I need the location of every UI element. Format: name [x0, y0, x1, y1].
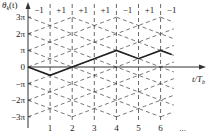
- bit-label: +1: [78, 5, 88, 15]
- y-tick-label: 3π: [16, 12, 26, 22]
- trellis-line: [116, 95, 173, 117]
- bit-label: +1: [101, 5, 111, 15]
- y-tick-label: π: [20, 45, 25, 55]
- x-tick-label: 2: [70, 123, 75, 133]
- x-tick-label: ...: [179, 123, 186, 133]
- trellis-line: [72, 79, 174, 117]
- bit-label: −1: [123, 5, 133, 15]
- bit-labels: −1+1+1+1−1+1−1: [34, 5, 176, 15]
- y-tick-label: 0: [21, 62, 26, 72]
- x-tick-label: 4: [114, 123, 119, 133]
- axes: [26, 2, 207, 128]
- x-tick-label: 3: [92, 123, 97, 133]
- x-tick-labels: 123456...: [48, 123, 186, 133]
- y-tick-label: −3π: [11, 112, 26, 122]
- y-tick-label: 2π: [16, 29, 26, 39]
- trellis-line: [72, 17, 174, 55]
- x-tick-label: 1: [48, 123, 53, 133]
- x-tick-label: 6: [158, 123, 163, 133]
- bit-label: +1: [145, 5, 155, 15]
- x-axis-arrow-icon: [199, 65, 206, 70]
- bit-boundary-lines: [50, 4, 161, 121]
- bit-label: −1: [167, 5, 177, 15]
- y-tick-label: −2π: [11, 95, 26, 105]
- y-tick-label: −π: [15, 79, 25, 89]
- trellis-line: [116, 17, 173, 39]
- phase-path: [28, 50, 172, 75]
- y-axis-label: θk(t): [2, 0, 18, 11]
- trellis-line: [161, 17, 174, 22]
- bit-label: +1: [56, 5, 66, 15]
- trellis-line: [161, 112, 174, 117]
- x-tick-label: 5: [136, 123, 141, 133]
- msk-phase-trellis: 3π2ππ0−π−2π−3π 123456... −1+1+1+1−1+1−1 …: [0, 0, 211, 137]
- x-axis-label: t/Tb: [192, 74, 205, 85]
- bit-label: −1: [34, 5, 44, 15]
- y-axis-arrow-icon: [26, 2, 31, 9]
